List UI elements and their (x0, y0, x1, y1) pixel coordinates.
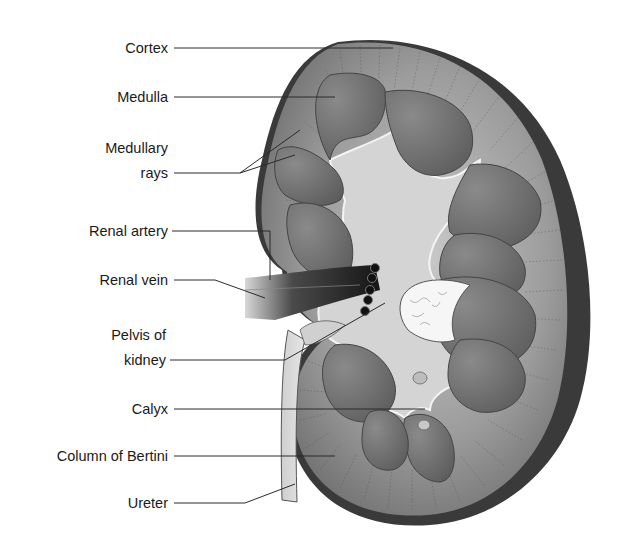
leader-renal-artery (172, 231, 270, 280)
kidney-diagram: Cortex Medulla Medullary rays Renal arte… (0, 0, 629, 556)
labels: Cortex Medulla Medullary rays Renal arte… (57, 40, 169, 511)
label-column-bertini: Column of Bertini (57, 448, 168, 464)
label-cortex: Cortex (125, 40, 168, 56)
label-pelvis: Pelvis of (111, 327, 167, 343)
label-renal-vein: Renal vein (99, 272, 168, 288)
label-renal-artery: Renal artery (89, 223, 169, 239)
label-medulla: Medulla (117, 89, 169, 105)
minor-calyx-bubble (413, 372, 427, 384)
label-medullary-rays: Medullary (105, 140, 169, 156)
label-pelvis-line2: kidney (124, 352, 167, 368)
label-ureter: Ureter (128, 495, 168, 511)
leader-ureter (174, 484, 295, 503)
label-calyx: Calyx (132, 401, 169, 417)
label-medullary-rays-line2: rays (141, 165, 168, 181)
minor-calyx-bubble-2 (418, 420, 430, 430)
